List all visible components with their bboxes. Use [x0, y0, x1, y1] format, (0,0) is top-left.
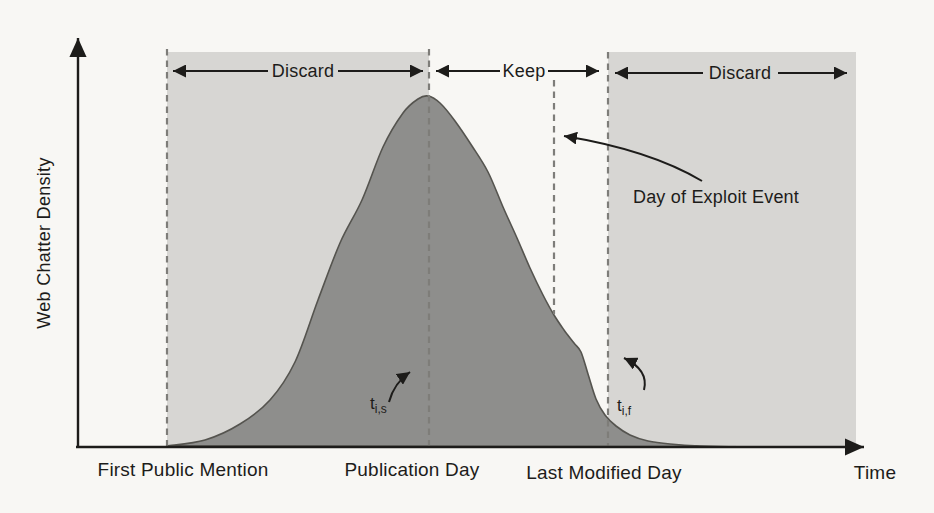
publication-day-label: Publication Day: [344, 459, 479, 481]
figure-canvas: [0, 0, 934, 513]
last-modified-day-label: Last Modified Day: [526, 462, 681, 484]
keep-label: Keep: [503, 61, 546, 82]
time-label: Time: [854, 462, 896, 484]
figure: Web Chatter Density Discard Keep Discard…: [0, 0, 934, 513]
t-finish-sub: i,f: [622, 404, 631, 418]
t-start-label: ti,s: [370, 394, 387, 414]
t-finish-label: ti,f: [617, 396, 631, 416]
first-public-mention-label: First Public Mention: [98, 459, 269, 481]
y-axis-label: Web Chatter Density: [34, 157, 55, 328]
discard-left-label: Discard: [272, 61, 334, 82]
exploit-event-label: Day of Exploit Event: [633, 187, 799, 208]
discard-right-label: Discard: [709, 63, 771, 84]
t-start-sub: i,s: [375, 402, 387, 416]
